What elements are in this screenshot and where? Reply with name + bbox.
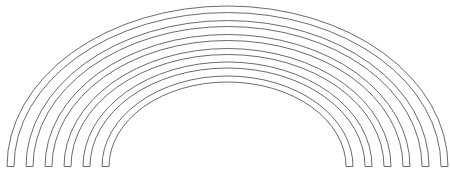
arch-bands-group	[7, 6, 448, 167]
arch-bands-figure	[0, 0, 450, 174]
